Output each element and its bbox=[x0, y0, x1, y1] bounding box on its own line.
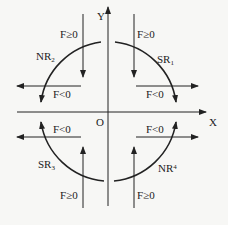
q1-arc-name: SR bbox=[157, 53, 170, 65]
q1-horizontal-label: F<0 bbox=[146, 89, 164, 100]
q2-arc-name: NR bbox=[36, 50, 51, 62]
q2-vertical-label: F≥0 bbox=[60, 29, 78, 40]
q2-horizontal-label: F<0 bbox=[53, 89, 71, 100]
q1-arc-label: SR1 bbox=[157, 54, 174, 67]
q1-arc-sub: 1 bbox=[170, 59, 174, 67]
x-axis-label: X bbox=[209, 117, 217, 128]
q4-horizontal-label: F<0 bbox=[146, 124, 164, 135]
q2-arc-sub: 2 bbox=[51, 56, 55, 64]
origin-label: O bbox=[96, 117, 104, 128]
q3-horizontal-label: F<0 bbox=[53, 124, 71, 135]
q4-arc-sub: 4 bbox=[173, 163, 177, 171]
q3-arc-name: SR bbox=[38, 158, 51, 170]
q4-arc-name: NR bbox=[158, 162, 173, 174]
q2-arc-label: NR2 bbox=[36, 51, 55, 64]
q3-arc-sub: 3 bbox=[51, 164, 55, 172]
y-axis-label: Y bbox=[97, 11, 105, 22]
arc-sr3 bbox=[41, 122, 104, 181]
diagram-graphics bbox=[0, 0, 228, 225]
q1-vertical-label: F≥0 bbox=[137, 29, 155, 40]
q4-vertical-label: F≥0 bbox=[137, 190, 155, 201]
q3-arc-label: SR3 bbox=[38, 159, 55, 172]
q4-arc-label: NR4 bbox=[158, 163, 177, 174]
circular-interpolation-diagram: Y X O F≥0 NR2 F<0 F≥0 SR1 F<0 F<0 SR3 F≥… bbox=[0, 0, 228, 225]
q3-vertical-label: F≥0 bbox=[60, 190, 78, 201]
